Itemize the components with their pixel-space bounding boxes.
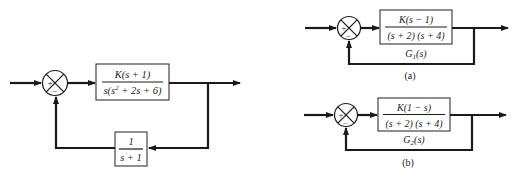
denominator: s(s2 + 2s + 6) xyxy=(104,84,162,97)
summing-junction: + − xyxy=(335,104,358,128)
caption-b: (b) xyxy=(402,157,414,169)
numerator: K(1 − s) xyxy=(396,102,432,114)
feedback-block: 1 s + 1 xyxy=(115,132,147,166)
left-diagram: + − K(s + 1) s(s2 + 2s + 6) 1 s + 1 xyxy=(10,64,240,166)
denominator: (s + 2) (s + 4) xyxy=(387,30,445,42)
transfer-label: G1(s) xyxy=(405,48,427,61)
feedback-denominator: s + 1 xyxy=(120,152,142,163)
minus-sign: − xyxy=(52,86,57,96)
forward-block: K(s − 1) (s + 2) (s + 4) xyxy=(380,10,452,44)
caption-a: (a) xyxy=(404,70,415,82)
minus-sign: − xyxy=(343,118,348,128)
numerator: K(s − 1) xyxy=(398,14,434,26)
feedback-numerator: 1 xyxy=(128,136,133,147)
forward-block: K(1 − s) (s + 2) (s + 4) xyxy=(378,98,450,131)
numerator: K(s + 1) xyxy=(114,69,151,81)
denominator: (s + 2) (s + 4) xyxy=(385,118,443,130)
block-diagrams: + − K(s + 1) s(s2 + 2s + 6) 1 s + 1 xyxy=(0,0,512,177)
minus-sign: − xyxy=(346,31,351,41)
transfer-label: G2(s) xyxy=(403,134,425,147)
summing-junction: + − xyxy=(338,17,361,41)
diagram-b: + − K(1 − s) (s + 2) (s + 4) G2(s) (b) xyxy=(304,98,506,169)
summing-junction: + − xyxy=(43,71,68,97)
feedback-path-left xyxy=(56,97,115,148)
forward-block: K(s + 1) s(s2 + 2s + 6) xyxy=(96,64,169,100)
diagram-a: + − K(s − 1) (s + 2) (s + 4) G1(s) (a) xyxy=(305,10,508,82)
